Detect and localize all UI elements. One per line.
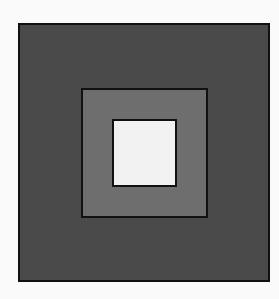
inner-square bbox=[112, 119, 177, 187]
